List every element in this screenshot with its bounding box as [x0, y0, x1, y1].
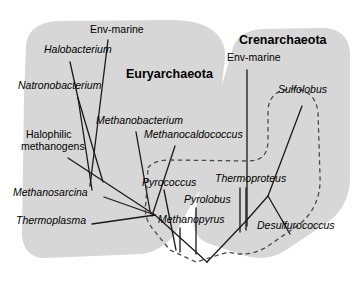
taxon-label-natronobacterium: Natronobacterium: [18, 79, 102, 91]
taxon-label-halophilic-line2: methanogens: [21, 140, 85, 152]
taxon-label-methanobacterium: Methanobacterium: [96, 114, 183, 126]
taxon-label-env-marine-euryarchaeota: Env-marine: [90, 23, 144, 35]
taxon-label-desulfurococcus: Desulfurococcus: [257, 219, 335, 231]
taxon-label-methanocaldococcus: Methanocaldococcus: [144, 128, 243, 140]
taxon-label-methanosarcina: Methanosarcina: [13, 186, 88, 198]
taxon-label-sulfolobus: Sulfolobus: [278, 83, 328, 95]
taxon-label-halobacterium: Halobacterium: [44, 43, 112, 55]
domain-label-euryarchaeota: Euryarchaeota: [126, 67, 214, 81]
taxon-label-thermoplasma: Thermoplasma: [16, 214, 86, 226]
taxon-label-thermoproteus: Thermoproteus: [215, 172, 287, 184]
taxon-label-pyrococcus: Pyrococcus: [142, 176, 197, 188]
taxon-label-pyrolobus: Pyrolobus: [184, 193, 231, 205]
taxon-label-halophilic-line1: Halophilic: [26, 128, 72, 140]
phylogenetic-tree-figure: Euryarchaeota Crenarchaeota Env-marine H…: [0, 0, 354, 285]
taxon-label-methanopyrus: Methanopyrus: [158, 213, 225, 225]
domain-label-crenarchaeota: Crenarchaeota: [239, 33, 328, 47]
taxon-label-env-marine-crenarchaeota: Env-marine: [227, 51, 281, 63]
